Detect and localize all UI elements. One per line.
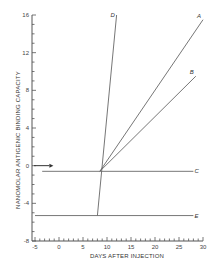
y-tick-label: -4 [24,200,30,206]
line-chart: 1612840-4-8-5051015202530DAYS AFTER INJE… [0,0,218,270]
curve-label-e: E [194,213,199,219]
y-tick-label: -8 [24,238,30,244]
curve-label-d: D [111,12,116,18]
y-tick-label: 4 [26,125,30,131]
curve-label-a: A [196,13,201,19]
curve-label-b: B [190,69,194,75]
series-line-d [97,15,116,216]
x-tick-label: 25 [176,244,183,250]
y-tick-label: 8 [26,87,30,93]
x-tick-label: 15 [128,244,135,250]
y-tick-label: 12 [22,50,29,56]
arrow-head-icon [49,164,53,168]
y-axis-title: NANOMOLAR ANTIGENIC BINDING CAPACITY [15,71,21,209]
x-axis-title: DAYS AFTER INJECTION [90,253,164,259]
curve-label-c: C [194,168,199,174]
series-line-a [100,20,203,172]
x-tick-label: 0 [57,244,61,250]
x-tick-label: 30 [200,244,207,250]
x-tick-label: -5 [32,244,38,250]
series-line-b [100,76,196,171]
x-tick-label: 5 [81,244,85,250]
x-tick-label: 20 [152,244,159,250]
x-tick-label: 10 [104,244,111,250]
y-tick-label: 0 [26,163,30,169]
y-tick-label: 16 [22,12,29,18]
